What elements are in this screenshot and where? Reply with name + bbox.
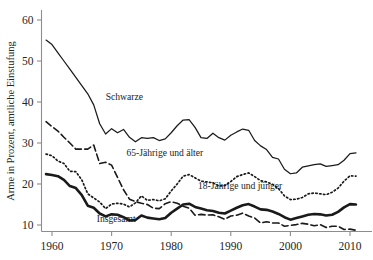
tick-labels-layer: 102030405060196019701980199020002010 [22,14,362,252]
y-tick-label: 40 [22,96,34,108]
x-tick-label: 1990 [219,240,242,252]
x-tick-label: 1960 [41,240,64,252]
series-layer [46,40,356,230]
series-label-3: Insgesamt [97,213,136,224]
x-tick-label: 2010 [339,240,362,252]
x-tick-label: 1970 [100,240,123,252]
x-tick-label: 2000 [279,240,302,252]
series-label-2: 18-Jährige und jünger [198,180,283,191]
y-tick-label: 20 [22,178,34,190]
axes-layer [37,10,372,236]
poverty-rate-line-chart: Schwarze65-Jährige und älter18-Jährige u… [0,0,373,260]
x-tick-label: 1980 [160,240,183,252]
y-tick-label: 60 [22,14,34,26]
chart-canvas: Schwarze65-Jährige und älter18-Jährige u… [0,0,373,260]
y-tick-label: 30 [22,137,34,149]
y-tick-label: 50 [22,55,34,67]
series-label-0: Schwarze [106,91,143,102]
y-tick-label: 10 [22,219,34,231]
axis-title-layer: Arme in Prozent, amtliche Einstufung [5,41,16,201]
y-axis-title: Arme in Prozent, amtliche Einstufung [5,41,16,201]
series-label-1: 65-Jährige und älter [127,147,205,158]
